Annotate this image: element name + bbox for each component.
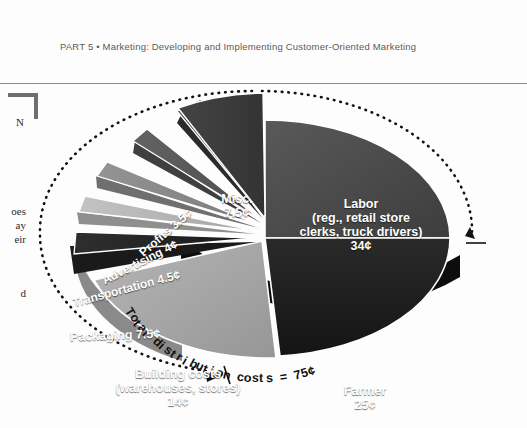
pie-chart-svg <box>0 84 527 428</box>
pie-slice-labor <box>265 120 450 238</box>
pie-chart-figure: Total distribution costs = 75¢ Labor (re… <box>0 84 527 428</box>
pie-slice-farmer <box>265 238 450 356</box>
book-page: PART 5 • Marketing: Developing and Imple… <box>0 0 527 428</box>
running-head: PART 5 • Marketing: Developing and Imple… <box>60 41 416 52</box>
slice-label-misc: Misc. 7.5¢ <box>207 192 267 220</box>
